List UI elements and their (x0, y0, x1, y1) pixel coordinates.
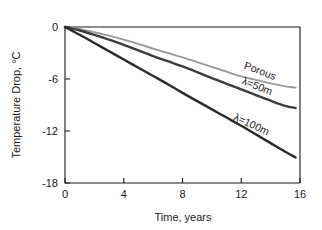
y-tick-label: 0 (52, 21, 58, 33)
y-tick-label: -6 (48, 73, 58, 85)
x-tick-label: 4 (121, 188, 127, 200)
x-axis-title: Time, years (154, 211, 212, 223)
temperature-drop-line-chart: 0481216 0-6-12-18 Porousλ=50mλ=100m Time… (0, 0, 322, 230)
x-tick-label: 12 (235, 188, 247, 200)
y-axis-title: Temperature Drop, °C (10, 51, 22, 158)
x-axis-ticks: 0481216 (62, 178, 306, 200)
plot-frame (65, 27, 300, 183)
x-tick-label: 8 (179, 188, 185, 200)
y-tick-label: -12 (42, 125, 58, 137)
chart-figure: 0481216 0-6-12-18 Porousλ=50mλ=100m Time… (0, 0, 322, 230)
x-tick-label: 16 (294, 188, 306, 200)
x-tick-label: 0 (62, 188, 68, 200)
y-axis-ticks: 0-6-12-18 (42, 21, 70, 189)
plot-border (65, 27, 300, 183)
y-tick-label: -18 (42, 177, 58, 189)
